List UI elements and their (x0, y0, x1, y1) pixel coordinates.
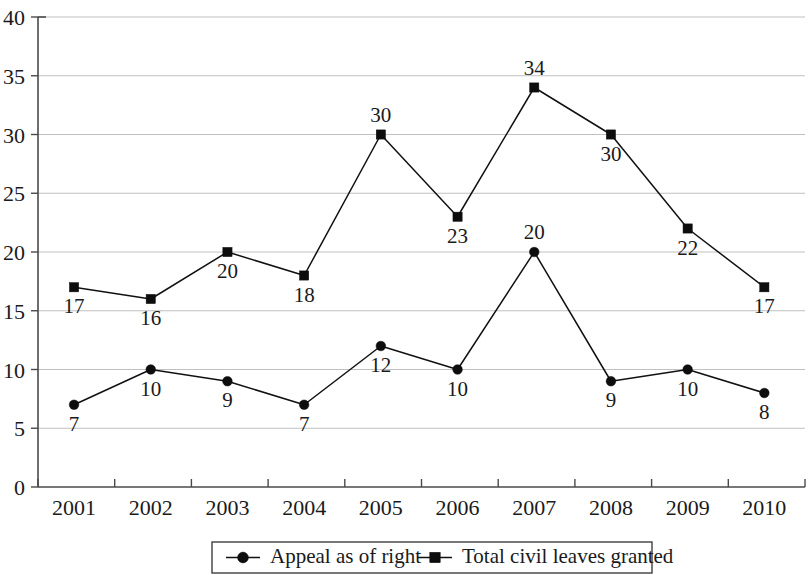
data-point-marker-circle (683, 365, 693, 375)
data-series-group (69, 83, 769, 410)
y-axis-tick-label: 30 (3, 123, 25, 148)
data-point-marker-circle (376, 341, 386, 351)
data-point-marker-square (300, 271, 309, 280)
y-axis-tick-label: 25 (3, 181, 25, 206)
data-point-marker-square (223, 247, 232, 256)
y-axis-tick-label: 10 (3, 358, 25, 383)
chart-canvas: 0510152025303540 20012002200320042005200… (0, 0, 812, 575)
data-point-label: 22 (677, 236, 698, 260)
data-point-label: 10 (140, 377, 161, 401)
data-point-marker-square (146, 294, 155, 303)
x-axis-tick-label: 2004 (282, 495, 326, 520)
data-point-label: 8 (759, 400, 770, 424)
data-point-label: 9 (606, 388, 617, 412)
data-point-label: 34 (524, 56, 546, 80)
data-point-label: 30 (370, 103, 391, 127)
x-axis-tick-labels: 2001200220032004200520062007200820092010 (52, 495, 786, 520)
data-point-label: 17 (64, 294, 85, 318)
line-chart: 0510152025303540 20012002200320042005200… (0, 0, 812, 575)
data-point-label: 10 (677, 377, 698, 401)
data-point-marker-circle (453, 365, 463, 375)
y-axis-tick-label: 20 (3, 240, 25, 265)
data-point-label: 7 (299, 412, 310, 436)
chart-legend: Appeal as of rightTotal civil leaves gra… (212, 542, 674, 573)
series-line-1 (74, 252, 764, 405)
x-axis-tick-label: 2010 (742, 495, 786, 520)
data-point-marker-square (453, 212, 462, 221)
data-point-label: 16 (140, 306, 161, 330)
data-point-marker-square (606, 130, 615, 139)
data-point-marker-circle (606, 376, 616, 386)
x-axis-tick-label: 2003 (205, 495, 249, 520)
data-point-label: 30 (600, 142, 621, 166)
legend-marker-circle-icon (238, 552, 249, 563)
data-point-marker-square (376, 130, 385, 139)
x-axis-tick-label: 2009 (666, 495, 710, 520)
data-point-label: 9 (222, 388, 233, 412)
data-point-marker-square (69, 283, 78, 292)
x-axis-tick-label: 2008 (589, 495, 633, 520)
x-axis-tick-label: 2002 (129, 495, 173, 520)
data-point-label: 20 (217, 259, 238, 283)
data-point-marker-circle (146, 365, 156, 375)
x-axis-tick-label: 2007 (512, 495, 556, 520)
data-point-marker-square (530, 83, 539, 92)
y-axis-tick-labels: 0510152025303540 (3, 5, 25, 500)
data-point-label: 10 (447, 377, 468, 401)
y-axis-tick-label: 15 (3, 299, 25, 324)
data-point-label: 20 (524, 220, 545, 244)
data-point-labels: 71097121020910817162018302334302217 (64, 56, 775, 436)
data-point-marker-circle (299, 400, 309, 410)
data-point-label: 17 (754, 294, 775, 318)
data-point-label: 7 (69, 412, 80, 436)
data-point-marker-circle (69, 400, 79, 410)
data-point-marker-square (760, 283, 769, 292)
y-axis-tick-label: 40 (3, 5, 25, 30)
legend-label: Total civil leaves granted (462, 544, 674, 568)
data-point-label: 23 (447, 224, 468, 248)
x-axis-tick-label: 2001 (52, 495, 96, 520)
data-point-marker-circle (529, 247, 539, 257)
legend-marker-square-icon (430, 552, 440, 562)
data-point-marker-circle (223, 376, 233, 386)
legend-label: Appeal as of right (270, 544, 421, 568)
data-point-marker-circle (760, 388, 770, 398)
y-axis-tick-label: 35 (3, 64, 25, 89)
x-axis-tick-label: 2005 (359, 495, 403, 520)
y-axis-tick-label: 5 (14, 416, 25, 441)
x-axis-tick-label: 2006 (436, 495, 480, 520)
y-axis-tick-label: 0 (14, 475, 25, 500)
data-point-label: 18 (294, 283, 315, 307)
data-point-marker-square (683, 224, 692, 233)
data-point-label: 12 (370, 353, 391, 377)
